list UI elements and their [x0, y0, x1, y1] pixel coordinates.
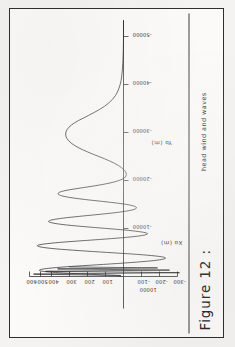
x-tick-label: 10000	[139, 286, 156, 292]
y-tick-label: -300	[173, 278, 185, 284]
x-axis-tick-labels: 10000 -10000 -20000 -30000 -40000 -50000	[132, 31, 156, 292]
figure-caption-label: Figure 12 :	[196, 249, 212, 330]
x-tick-label: -50000	[132, 31, 151, 37]
y-tick-label: -200	[155, 278, 167, 284]
figure-caption-text: head wind and waves	[199, 92, 207, 171]
figure-caption: Figure 12 : head wind and waves	[191, 16, 216, 330]
y-tick-label: -100	[137, 278, 149, 284]
x-tick-label: -20000	[132, 175, 151, 181]
x-tick-label: -10000	[132, 223, 151, 229]
scanned-page: 10000 -10000 -20000 -30000 -40000 -50000	[0, 0, 235, 347]
x-axis-ticks	[118, 36, 128, 276]
y-tick-label: 500	[37, 278, 47, 284]
rotated-figure-container: 10000 -10000 -20000 -30000 -40000 -50000	[11, 10, 222, 336]
chart-plot-area: 10000 -10000 -20000 -30000 -40000 -50000	[11, 10, 186, 336]
y-tick-label: 600	[26, 278, 36, 284]
y-tick-label: 400	[48, 278, 58, 284]
x-axis-title: Yo (m)	[151, 139, 173, 145]
page-border-frame: 10000 -10000 -20000 -30000 -40000 -50000	[9, 8, 224, 338]
y-axis-tick-labels: -300 -200 -100 100 200 300 400 500 600	[26, 278, 185, 284]
y-axis-title: Xo (m)	[160, 239, 182, 245]
x-tick-label: -40000	[132, 79, 151, 85]
caption-divider	[188, 13, 189, 333]
data-series-trajectory	[37, 20, 165, 275]
x-tick-label: -30000	[132, 127, 151, 133]
y-tick-label: 100	[102, 278, 112, 284]
line-chart: 10000 -10000 -20000 -30000 -40000 -50000	[11, 10, 186, 336]
figure-inner: 10000 -10000 -20000 -30000 -40000 -50000	[11, 10, 222, 336]
y-tick-label: 200	[84, 278, 94, 284]
y-tick-label: 300	[66, 278, 76, 284]
